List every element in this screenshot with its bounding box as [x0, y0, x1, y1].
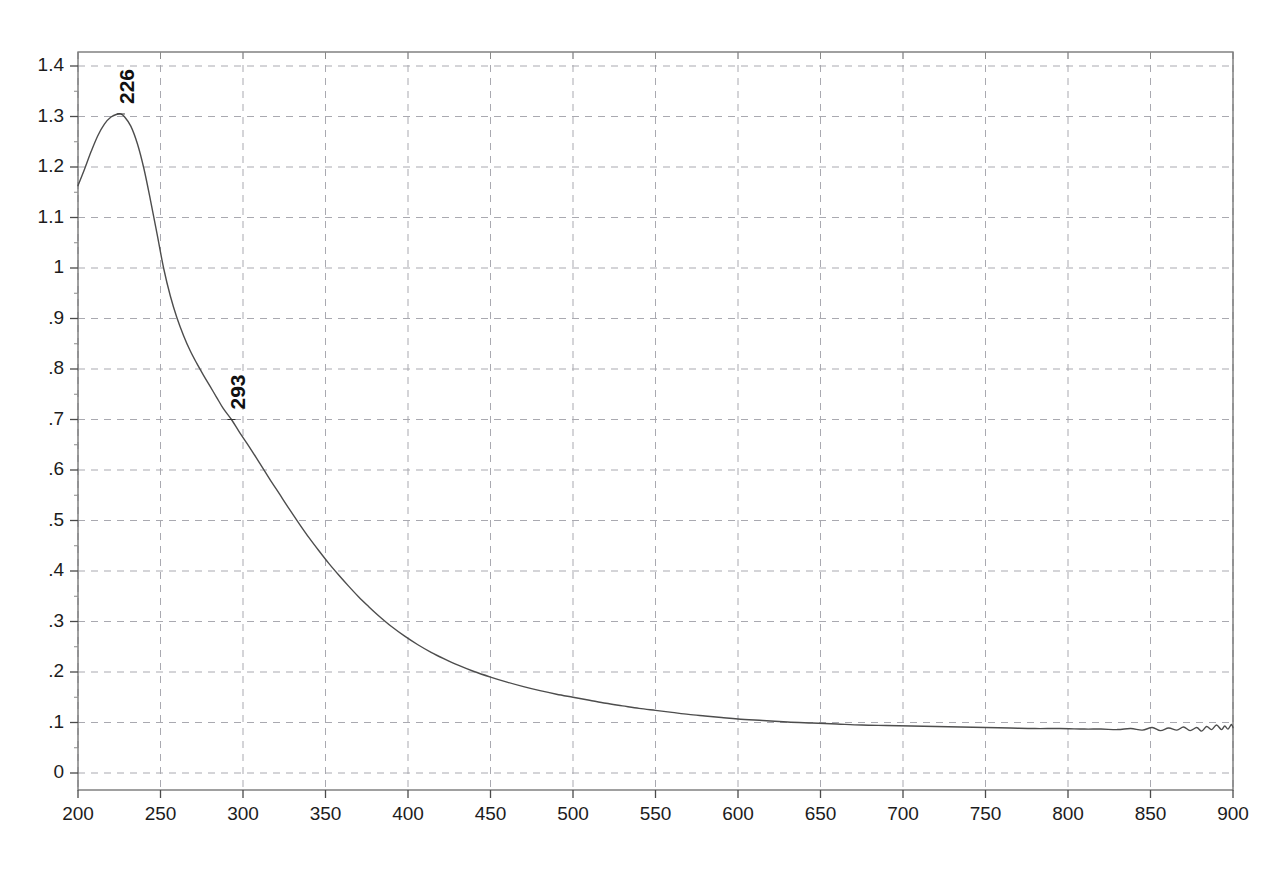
peak-annotations: 226293	[115, 69, 249, 420]
uv-vis-spectrum-chart: 0.1.2.3.4.5.6.7.8.911.11.21.31.4 2002503…	[0, 0, 1288, 870]
y-tick-label: 1.4	[38, 54, 65, 75]
axis-ticks	[70, 52, 1233, 798]
spectrum-plot-area: 0.1.2.3.4.5.6.7.8.911.11.21.31.4 2002503…	[0, 0, 1288, 870]
x-tick-label: 700	[887, 803, 919, 824]
y-tick-label: .6	[48, 458, 64, 479]
x-tick-label: 650	[805, 803, 837, 824]
y-axis-tick-labels: 0.1.2.3.4.5.6.7.8.911.11.21.31.4	[38, 54, 65, 782]
x-tick-label: 550	[640, 803, 672, 824]
x-axis-tick-labels: 2002503003504004505005506006507007508008…	[62, 803, 1249, 824]
x-tick-label: 750	[970, 803, 1002, 824]
grid-lines	[78, 52, 1233, 790]
y-tick-label: 0	[53, 761, 64, 782]
y-tick-label: .4	[48, 559, 64, 580]
y-tick-label: 1.3	[38, 105, 64, 126]
y-tick-label: 1	[53, 256, 64, 277]
y-tick-label: .2	[48, 660, 64, 681]
x-tick-label: 400	[392, 803, 424, 824]
y-tick-label: 1.2	[38, 155, 64, 176]
x-tick-label: 850	[1135, 803, 1167, 824]
x-tick-label: 350	[310, 803, 342, 824]
peak-annotation-226: 226	[115, 69, 138, 104]
x-tick-label: 250	[145, 803, 177, 824]
peak-annotation-293: 293	[226, 374, 249, 409]
x-tick-label: 300	[227, 803, 259, 824]
y-tick-label: .5	[48, 509, 64, 530]
y-tick-label: .3	[48, 610, 64, 631]
x-tick-label: 200	[62, 803, 94, 824]
x-tick-label: 800	[1052, 803, 1084, 824]
y-tick-label: .1	[48, 711, 64, 732]
x-tick-label: 450	[475, 803, 507, 824]
x-tick-label: 600	[722, 803, 754, 824]
y-tick-label: .9	[48, 307, 64, 328]
y-tick-label: .8	[48, 357, 64, 378]
y-tick-label: 1.1	[38, 206, 64, 227]
x-tick-label: 900	[1217, 803, 1249, 824]
x-tick-label: 500	[557, 803, 589, 824]
y-tick-label: .7	[48, 408, 64, 429]
